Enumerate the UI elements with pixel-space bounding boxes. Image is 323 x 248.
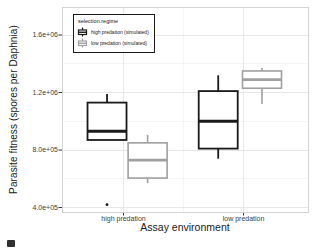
y-tick-label: 8.0e+05 xyxy=(26,146,58,154)
legend-entry-label: high predation (simulated) xyxy=(91,29,149,35)
boxplot-key-icon xyxy=(77,38,88,48)
x-tick-label: low predation xyxy=(204,215,284,223)
legend: selection.regime high predation (simulat… xyxy=(73,14,155,53)
y-tick-label: 1.2e+06 xyxy=(26,89,58,97)
y-axis-title: Parasite fitness (spores per Daphnia) xyxy=(8,7,21,213)
boxplot-figure: Parasite fitness (spores per Daphnia) As… xyxy=(0,0,323,248)
x-tick-label: high predation xyxy=(84,215,164,223)
legend-entry-low-predation: low predation (simulated) xyxy=(77,37,151,48)
y-tick-label: 4.0e+05 xyxy=(26,204,58,212)
boxplot-box xyxy=(88,103,127,140)
legend-entry-high-predation: high predation (simulated) xyxy=(77,26,151,37)
corner-artifact-mark xyxy=(7,240,15,247)
y-tick-label: 1.6e+06 xyxy=(26,31,58,39)
boxplot-key-icon xyxy=(77,27,88,37)
legend-title: selection.regime xyxy=(78,18,151,24)
legend-entry-label: low predation (simulated) xyxy=(91,40,147,46)
outlier-point xyxy=(106,203,109,206)
